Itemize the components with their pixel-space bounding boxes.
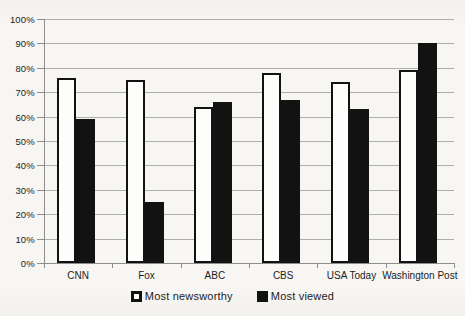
bar-chart: 0%10%20%30%40%50%60%70%80%90%100%CNNFoxA… [0, 0, 465, 316]
bar-fox-most-viewed [145, 202, 164, 263]
plot-area: 0%10%20%30%40%50%60%70%80%90%100%CNNFoxA… [0, 0, 465, 316]
y-axis-tick [37, 165, 44, 166]
gridline [44, 141, 454, 142]
gridline [44, 92, 454, 93]
y-axis-tick [37, 117, 44, 118]
y-axis-label: 80% [0, 62, 35, 73]
bar-usa-today-most-viewed [350, 109, 369, 263]
legend-item-most-viewed: Most viewed [257, 290, 334, 302]
x-axis-tick [249, 263, 250, 268]
category-label-cnn: CNN [67, 270, 89, 281]
x-axis-tick [317, 263, 318, 268]
bar-washington-post-most-newsworthy [399, 70, 418, 263]
legend-label-most-viewed: Most viewed [271, 290, 334, 302]
y-axis-line [44, 19, 45, 264]
bar-abc-most-newsworthy [194, 107, 213, 263]
y-axis-label: 30% [0, 184, 35, 195]
y-axis-label: 20% [0, 209, 35, 220]
x-axis-tick [386, 263, 387, 268]
bar-cbs-most-viewed [281, 100, 300, 263]
y-axis-label: 60% [0, 111, 35, 122]
gridline [44, 190, 454, 191]
y-axis-tick [37, 214, 44, 215]
bar-usa-today-most-newsworthy [331, 82, 350, 263]
y-axis-tick [37, 263, 44, 264]
y-axis-label: 90% [0, 38, 35, 49]
gridline [44, 68, 454, 69]
gridline [44, 117, 454, 118]
bar-cnn-most-newsworthy [57, 78, 76, 263]
y-axis-label: 10% [0, 233, 35, 244]
y-axis-tick [37, 68, 44, 69]
category-label-washington-post: Washington Post [382, 270, 457, 281]
y-axis-tick [37, 190, 44, 191]
category-label-fox: Fox [138, 270, 155, 281]
gridline [44, 165, 454, 166]
category-label-abc: ABC [205, 270, 226, 281]
x-axis-tick [44, 263, 45, 268]
y-axis-label: 100% [0, 14, 35, 25]
y-axis-label: 70% [0, 87, 35, 98]
y-axis-label: 40% [0, 160, 35, 171]
bar-cnn-most-viewed [76, 119, 95, 263]
y-axis-tick [37, 43, 44, 44]
y-axis-tick [37, 19, 44, 20]
gridline [44, 214, 454, 215]
legend: Most newsworthyMost viewed [0, 290, 465, 302]
y-axis-tick [37, 239, 44, 240]
bar-fox-most-newsworthy [126, 80, 145, 263]
y-axis-label: 0% [0, 258, 35, 269]
legend-swatch-most-viewed [257, 291, 268, 302]
category-label-cbs: CBS [273, 270, 294, 281]
bar-washington-post-most-viewed [418, 43, 437, 263]
legend-item-most-newsworthy: Most newsworthy [131, 290, 233, 302]
y-axis-label: 50% [0, 136, 35, 147]
legend-swatch-most-newsworthy [131, 291, 142, 302]
y-axis-tick [37, 92, 44, 93]
gridline [44, 239, 454, 240]
bar-cbs-most-newsworthy [262, 73, 281, 263]
x-axis-tick [454, 263, 455, 268]
x-axis-tick [112, 263, 113, 268]
x-axis-tick [181, 263, 182, 268]
category-label-usa-today: USA Today [327, 270, 376, 281]
gridline [44, 43, 454, 44]
gridline [44, 19, 454, 20]
bar-abc-most-viewed [213, 102, 232, 263]
legend-label-most-newsworthy: Most newsworthy [145, 290, 233, 302]
y-axis-tick [37, 141, 44, 142]
